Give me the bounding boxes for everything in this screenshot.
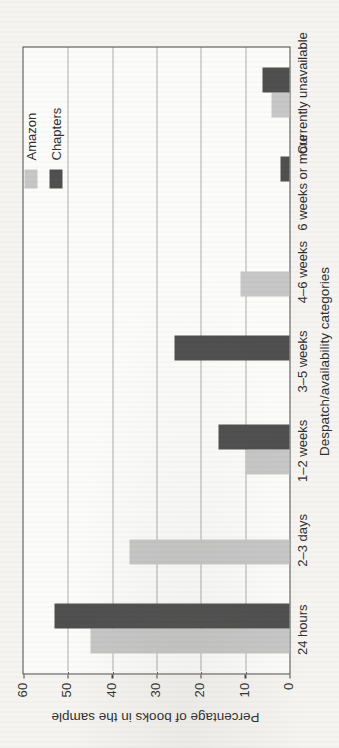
y-tick-0: [289, 675, 291, 679]
legend-swatch-amazon: [24, 169, 37, 188]
y-tick-label-60: 60: [15, 682, 30, 697]
y-axis-tick-labels: 0102030405060: [22, 674, 288, 748]
x-category-label-2-3-days: 2–3 days: [294, 513, 309, 566]
y-tick-60: [23, 675, 25, 679]
y-tick-20: [200, 675, 202, 679]
x-axis-category-labels: 24 hours2–3 days1–2 weeks3–5 weeks4–6 we…: [294, 48, 312, 674]
bar-amazon-24-hours: [90, 628, 290, 653]
x-axis-title: Despatch/availability categories: [316, 266, 331, 455]
y-tick-30: [156, 675, 158, 679]
y-tick-label-20: 20: [192, 682, 207, 697]
legend-entry-chapters: Chapters: [48, 107, 63, 188]
x-category-label-3-5-weeks: 3–5 weeks: [294, 330, 309, 392]
bar-amazon-currently-unavailable: [271, 92, 289, 117]
bar-chapters-24-hours: [54, 603, 289, 628]
y-tick-label-30: 30: [148, 682, 163, 697]
gridline-40: [112, 47, 113, 673]
legend-swatch-chapters: [49, 169, 62, 188]
legend-label-chapters: Chapters: [48, 107, 63, 160]
bar-amazon-1-2-weeks: [245, 449, 289, 474]
bar-chapters-1-2-weeks: [218, 424, 289, 449]
gridline-30: [156, 47, 157, 673]
y-tick-label-50: 50: [59, 682, 74, 697]
bar-chapters-3-5-weeks: [174, 335, 289, 360]
y-tick-50: [67, 675, 69, 679]
scanned-page: { "page": { "background": "#f5f4f1", "fi…: [0, 0, 339, 748]
bar-chapters-6-weeks-or-more: [280, 156, 289, 181]
legend-label-amazon: Amazon: [23, 112, 38, 160]
y-tick-label-0: 0: [281, 682, 296, 689]
bar-chapters-currently-unavailable: [262, 67, 289, 92]
x-category-label-24-hours: 24 hours: [294, 604, 309, 655]
bar-amazon-2-3-days: [129, 539, 289, 564]
bar-amazon-4-6-weeks: [240, 271, 289, 296]
rotated-figure: Percentage of books in the sample 010203…: [0, 0, 339, 748]
legend-entry-amazon: Amazon: [23, 107, 38, 188]
x-category-label-currently-unavailable: Currently unavailable: [294, 32, 309, 154]
y-tick-label-10: 10: [236, 682, 251, 697]
y-tick-40: [111, 675, 113, 679]
x-category-label-4-6-weeks: 4–6 weeks: [294, 241, 309, 303]
legend: AmazonChapters: [23, 107, 73, 188]
y-tick-10: [244, 675, 246, 679]
x-category-label-1-2-weeks: 1–2 weeks: [294, 419, 309, 481]
bar-chart-figure: Percentage of books in the sample 010203…: [0, 0, 339, 748]
y-tick-label-40: 40: [103, 682, 118, 697]
